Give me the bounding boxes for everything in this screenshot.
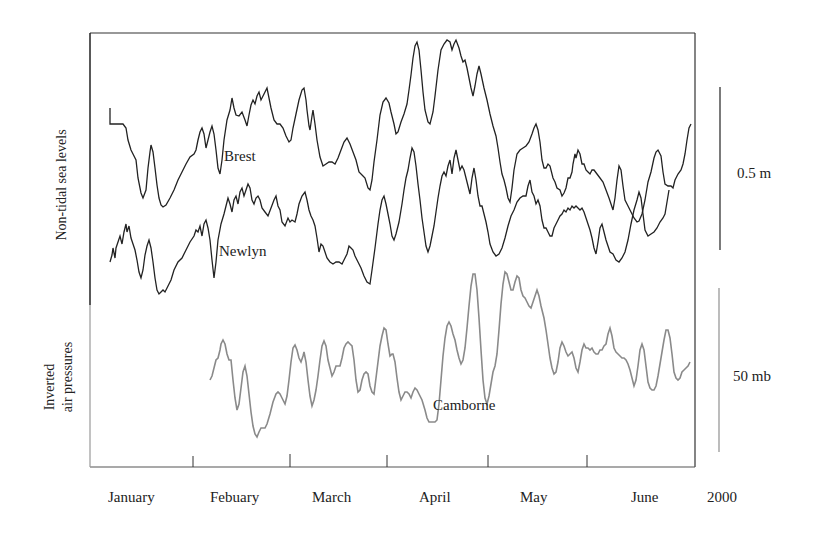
series-newlyn-line xyxy=(110,148,669,294)
scale-label-sea-level: 0.5 m xyxy=(737,165,772,181)
chart: 0.5 m 50 mb Non-tidal sea levels Inverte… xyxy=(0,0,813,535)
series-label-newlyn: Newlyn xyxy=(219,243,267,259)
y-axis-label-sea-level: Non-tidal sea levels xyxy=(54,129,69,240)
month-label-january: January xyxy=(108,489,155,505)
month-label-april: April xyxy=(419,489,451,505)
month-label-march: March xyxy=(312,489,352,505)
series-label-brest: Brest xyxy=(224,148,256,164)
series-label-camborne: Camborne xyxy=(433,397,496,413)
series-brest-line xyxy=(110,40,691,222)
year-label: 2000 xyxy=(707,489,737,505)
month-label-february: Febuary xyxy=(210,489,260,505)
x-axis-ticks xyxy=(193,454,587,467)
x-axis-month-labels: January Febuary March April May June xyxy=(108,489,659,505)
month-label-may: May xyxy=(520,489,548,505)
scale-label-air-pressure: 50 mb xyxy=(733,368,771,384)
month-label-june: June xyxy=(631,489,659,505)
y-axis-label-air-pressure-line1: Inverted xyxy=(42,364,57,411)
y-axis-label-air-pressure-line2: air pressures xyxy=(60,342,75,412)
plot-frame xyxy=(90,33,695,467)
